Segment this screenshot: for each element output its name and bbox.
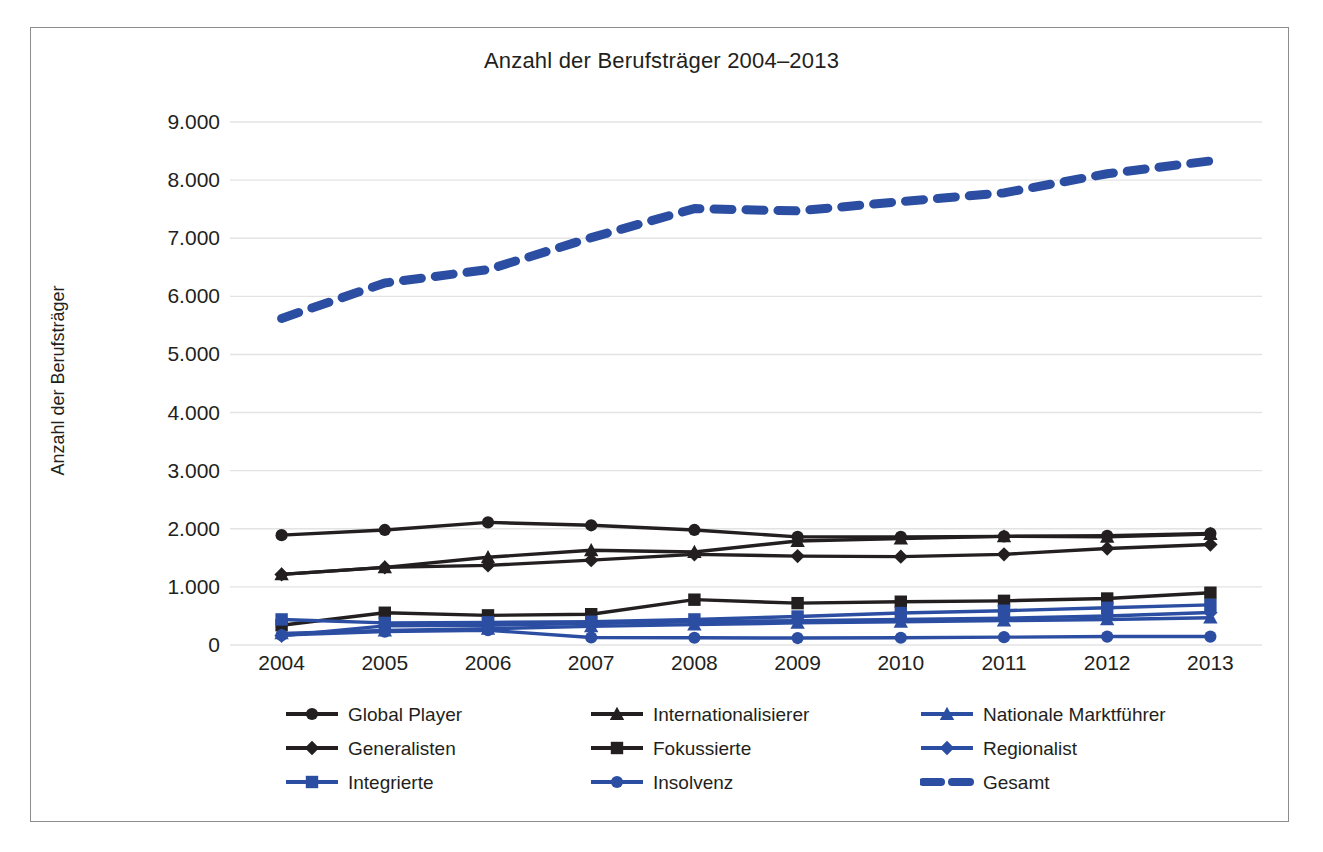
legend-marker-diamond-icon xyxy=(920,738,974,758)
data-point-square xyxy=(306,776,318,788)
legend-item[interactable]: Generalisten xyxy=(285,738,590,758)
data-point-square xyxy=(895,596,907,608)
data-point-square xyxy=(275,613,287,625)
data-point-circle xyxy=(276,529,288,541)
data-point-diamond xyxy=(894,549,908,563)
legend-marker-circle-icon xyxy=(590,772,644,792)
data-point-diamond xyxy=(940,741,954,755)
legend-item[interactable]: Internationalisierer xyxy=(590,704,920,724)
series-gesamt xyxy=(282,161,1211,318)
data-point-square xyxy=(611,742,623,754)
data-point-circle xyxy=(688,632,700,644)
data-point-square xyxy=(1204,599,1216,611)
x-axis-tick-label: 2006 xyxy=(465,651,512,675)
series-line xyxy=(282,161,1211,318)
legend-item[interactable]: Insolvenz xyxy=(590,772,920,792)
series-line xyxy=(282,630,1211,638)
data-point-circle xyxy=(688,524,700,536)
x-axis-tick-label: 2011 xyxy=(981,651,1026,675)
legend-label: Internationalisierer xyxy=(653,705,809,724)
legend-item[interactable]: Global Player xyxy=(285,704,590,724)
data-point-circle xyxy=(482,624,494,636)
data-point-square xyxy=(585,616,597,628)
data-point-circle xyxy=(379,626,391,638)
data-point-square xyxy=(791,597,803,609)
data-point-circle xyxy=(482,516,494,528)
data-point-circle xyxy=(585,519,597,531)
legend-item[interactable]: Fokussierte xyxy=(590,738,920,758)
legend-label: Insolvenz xyxy=(653,773,733,792)
series-generalisten xyxy=(274,537,1217,581)
x-axis-tick-label: 2007 xyxy=(568,651,615,675)
legend-item[interactable]: Regionalist xyxy=(920,738,1285,758)
x-axis-tick-label: 2004 xyxy=(258,651,305,675)
legend-marker-square-icon xyxy=(590,738,644,758)
legend-label: Fokussierte xyxy=(653,739,751,758)
legend-label: Global Player xyxy=(348,705,462,724)
x-axis-tick-label: 2009 xyxy=(774,651,821,675)
x-axis-tick-label: 2005 xyxy=(361,651,408,675)
data-point-square xyxy=(688,593,700,605)
legend-item[interactable]: Nationale Marktführer xyxy=(920,704,1285,724)
data-point-circle xyxy=(306,708,318,720)
legend-marker-diamond-icon xyxy=(285,738,339,758)
legend-label: Regionalist xyxy=(983,739,1077,758)
data-point-square xyxy=(1101,602,1113,614)
data-point-circle xyxy=(276,629,288,641)
legend-marker-triangle-icon xyxy=(920,704,974,724)
legend-marker-circle-icon xyxy=(285,704,339,724)
data-point-circle xyxy=(379,524,391,536)
legend-label: Nationale Marktführer xyxy=(983,705,1166,724)
data-point-circle xyxy=(792,632,804,644)
data-point-diamond xyxy=(997,547,1011,561)
x-axis-tick-label: 2012 xyxy=(1084,651,1131,675)
x-axis-tick-label: 2008 xyxy=(671,651,718,675)
legend-label: Generalisten xyxy=(348,739,456,758)
legend-marker-square-icon xyxy=(285,772,339,792)
data-point-square xyxy=(1204,587,1216,599)
series-line xyxy=(282,544,1211,574)
data-point-diamond xyxy=(687,547,701,561)
data-point-square xyxy=(895,607,907,619)
x-axis-tick-label: 2010 xyxy=(877,651,924,675)
data-point-circle xyxy=(585,631,597,643)
chart-legend: Global PlayerInternationalisiererNationa… xyxy=(285,697,1285,799)
series-line xyxy=(282,522,1211,537)
legend-label: Gesamt xyxy=(983,773,1050,792)
chart-page: Anzahl der Berufsträger 2004–2013 Anzahl… xyxy=(0,0,1323,852)
legend-item[interactable]: Integrierte xyxy=(285,772,590,792)
data-point-circle xyxy=(895,632,907,644)
x-axis-tick-label: 2013 xyxy=(1187,651,1234,675)
data-point-square xyxy=(998,605,1010,617)
legend-marker-none-icon xyxy=(920,772,974,792)
legend-label: Integrierte xyxy=(348,773,434,792)
legend-item[interactable]: Gesamt xyxy=(920,772,1285,792)
legend-marker-triangle-icon xyxy=(590,704,644,724)
data-point-square xyxy=(688,613,700,625)
data-point-circle xyxy=(1204,630,1216,642)
data-point-diamond xyxy=(1100,541,1114,555)
data-point-circle xyxy=(1101,630,1113,642)
series-global-player xyxy=(276,516,1217,543)
data-point-diamond xyxy=(790,549,804,563)
data-point-circle xyxy=(611,776,623,788)
data-point-circle xyxy=(998,631,1010,643)
data-point-square xyxy=(791,610,803,622)
data-point-diamond xyxy=(305,741,319,755)
